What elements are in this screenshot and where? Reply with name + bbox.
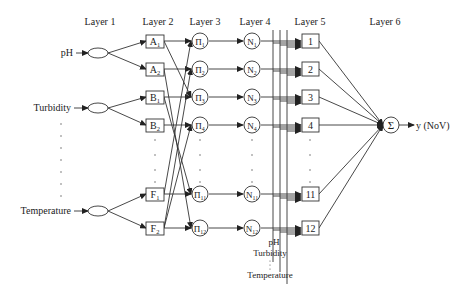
layer4-node: N12 [244, 220, 260, 236]
input-label-ph: pH [61, 47, 73, 58]
input-ellipsis-dots [60, 123, 61, 196]
layer2-node: F2 [146, 222, 164, 235]
layer2-node: F1 [146, 188, 164, 201]
ellipsis-dot [154, 169, 155, 170]
ellipsis-dot [154, 154, 155, 155]
bus-label-ph: pH [269, 237, 281, 247]
ellipsis-dot [199, 154, 200, 155]
layer-label-4: Layer 4 [240, 16, 271, 27]
layer5-node: 1 [302, 34, 319, 48]
membership-ellipse [88, 206, 108, 216]
edge-l2-l3 [164, 41, 191, 194]
bus-label-temperature: Temperature [247, 270, 292, 280]
layer4-node: N4 [244, 117, 260, 133]
layer5-node: 4 [302, 118, 319, 132]
edge-l2-l3 [164, 97, 191, 194]
membership-ellipse [88, 103, 108, 113]
layer1-nodes [74, 48, 108, 216]
edge-l2-l3 [164, 125, 191, 228]
layer5-node: 2 [302, 62, 319, 76]
edge-l5-l6 [319, 97, 383, 125]
edge-l5-l6 [319, 69, 383, 125]
input-label-turbidity: Turbidity [34, 102, 71, 113]
layer3-node: Π4 [192, 117, 208, 133]
ellipsis-dot [251, 169, 252, 170]
layer3-node: Π3 [192, 89, 208, 105]
ellipsis-dot [199, 169, 200, 170]
consequent-label: 4 [308, 120, 313, 131]
consequent-label: 12 [306, 223, 316, 234]
layer-label-3: Layer 3 [190, 16, 221, 27]
edge-l1-l2 [108, 108, 146, 125]
layer2-node: B2 [146, 119, 164, 132]
ellipsis-dot [309, 169, 310, 170]
edge-l5-l6 [319, 125, 383, 194]
layer4-node: N1 [244, 33, 260, 49]
layer3-node: Π11 [192, 186, 208, 202]
layer5-node: 3 [302, 90, 319, 104]
layer-label-5: Layer 5 [295, 16, 326, 27]
sum-symbol: Σ [388, 119, 394, 131]
ellipsis-dot [154, 181, 155, 182]
edge-l1-l2 [108, 53, 146, 69]
ellipsis-dot [309, 181, 310, 182]
layer-labels: Layer 1 Layer 2 Layer 3 Layer 4 Layer 5 … [85, 16, 401, 27]
membership-ellipse [88, 48, 108, 58]
layer3-node: Π12 [192, 220, 208, 236]
layer2-node: A1 [146, 35, 164, 48]
inputs: pH Turbidity Temperature [21, 47, 73, 216]
layer-label-1: Layer 1 [85, 16, 116, 27]
layer4-node: N3 [244, 89, 260, 105]
ellipsis-dot [251, 139, 252, 140]
ellipsis-dot [154, 139, 155, 140]
layer5-node: 11 [302, 187, 319, 201]
nodes: A1Π1N11A2Π2N22B1Π3N33B2Π4N44F1Π11N1111F2… [146, 33, 319, 236]
input-label-temperature: Temperature [21, 205, 72, 216]
layer-label-6: Layer 6 [370, 16, 401, 27]
edge-l5-l6 [319, 125, 383, 228]
layer2-node: A2 [146, 63, 164, 76]
output-label: y (NoV) [416, 120, 450, 132]
ellipsis-dot [251, 154, 252, 155]
layer2-node: B1 [146, 91, 164, 104]
layer3-node: Π2 [192, 61, 208, 77]
ellipsis-dot [309, 139, 310, 140]
consequent-label: 11 [306, 189, 316, 200]
ellipsis-dot [199, 181, 200, 182]
anfis-diagram: Layer 1 Layer 2 Layer 3 Layer 4 Layer 5 … [0, 0, 468, 294]
layer4-node: N11 [244, 186, 260, 202]
bus-ellipsis-dots [269, 260, 270, 269]
ellipsis-dot [251, 181, 252, 182]
edge-l5-l6 [319, 41, 383, 125]
bus-label-turbidity: Turbidity [253, 248, 287, 258]
layer5-node: 12 [302, 221, 319, 235]
edge-l1-l2 [108, 194, 146, 211]
output: Σ y (NoV) [383, 117, 450, 133]
ellipsis-dot [309, 154, 310, 155]
consequent-label: 3 [308, 92, 313, 103]
edge-l1-l2 [108, 97, 146, 108]
ellipsis-dot [199, 139, 200, 140]
edge-l1-l2 [108, 41, 146, 53]
layer-label-2: Layer 2 [143, 16, 174, 27]
layer3-node: Π1 [192, 33, 208, 49]
consequent-label: 2 [308, 64, 313, 75]
consequent-label: 1 [308, 36, 313, 47]
edge-l1-l2 [108, 211, 146, 228]
layer4-node: N2 [244, 61, 260, 77]
